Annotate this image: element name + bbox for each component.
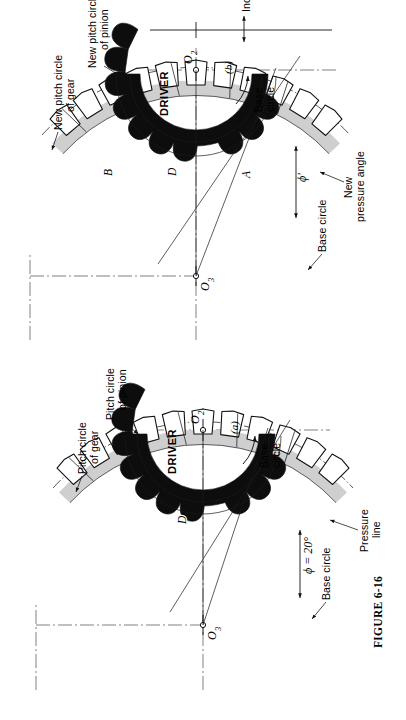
center-distance-dimension: Increase in center distance [150, 0, 332, 42]
svg-text:O: O [198, 282, 212, 291]
label-new-pitch-circle-pinion-b-l1: New pitch circle [86, 0, 98, 68]
driver-label-b: DRIVER [158, 71, 170, 116]
label-pitch-circle-pinion-a-l1: Pitch circle [104, 368, 116, 420]
label-new-pitch-circle-gear-b-l2: of gear [64, 78, 76, 112]
point-label-D-b: D [166, 167, 178, 177]
figure-caption: FIGURE 6-16 [372, 576, 384, 648]
point-label-P-a: P [202, 524, 214, 532]
label-pressure-angle-a: ϕ = 20° [301, 537, 315, 574]
panel-tag-b: (b) [222, 61, 235, 74]
label-new-pitch-circle-pinion-b-l2: of pinion [98, 9, 110, 50]
label-pressure-line-a-l2: line [370, 521, 382, 538]
center-label-O3-b: O 3 [198, 278, 216, 291]
figure-page: Base circle Pitch circle of gear Pitch c… [0, 0, 406, 720]
label-new-pressure-angle-b-l2: pressure angle [354, 151, 366, 222]
panel-tag-a: (a) [228, 421, 241, 434]
label-base-circle-pinion-b-l2: circle [264, 87, 276, 112]
label-base-circle-pinion-a-l2: circle [270, 443, 282, 468]
label-new-pressure-angle-symbol: ϕ' [295, 173, 309, 182]
label-pitch-circle-gear-a-l1: Pitch circle [76, 422, 88, 474]
svg-text:2: 2 [196, 410, 206, 415]
svg-text:O: O [181, 55, 195, 64]
panel-b: Increase in center distance Base circle … [30, 0, 366, 340]
rotated-figure-canvas: Base circle Pitch circle of gear Pitch c… [0, 0, 406, 720]
svg-text:2: 2 [189, 50, 199, 55]
label-new-pitch-circle-gear-b-l1: New pitch circle [52, 55, 64, 130]
gear-mesh-figure: Base circle Pitch circle of gear Pitch c… [0, 0, 406, 720]
svg-text:O: O [188, 415, 202, 424]
label-pressure-line-a-l1: Pressure [358, 509, 370, 552]
label-base-circle-pinion-a-l1: Base [258, 444, 270, 468]
point-label-P-b: P [196, 175, 208, 183]
point-label-B-b: B [102, 169, 114, 176]
label-new-pressure-angle-b-l1: New [342, 176, 354, 198]
point-label-D-a: D [176, 515, 188, 525]
svg-text:3: 3 [206, 278, 216, 283]
label-base-circle-gear-b: Base circle [316, 199, 328, 252]
label-increase-center-distance: Increase in center distance [240, 0, 252, 12]
panel-a: Base circle Pitch circle of gear Pitch c… [36, 368, 382, 690]
panel-b-labels: Base circle New pitch circle of gear New… [52, 0, 366, 291]
driver-label-a: DRIVER [166, 429, 178, 474]
point-label-A-b: A [240, 170, 252, 179]
label-pitch-circle-gear-a-l2: of gear [88, 430, 100, 464]
label-base-circle-gear-a: Base circle [320, 547, 332, 600]
svg-text:O: O [205, 631, 219, 640]
center-label-O3-a: O 3 [205, 627, 223, 640]
label-pitch-circle-pinion-a-l2: of pinion [116, 369, 128, 410]
label-base-circle-pinion-b-l1: Base [252, 88, 264, 112]
